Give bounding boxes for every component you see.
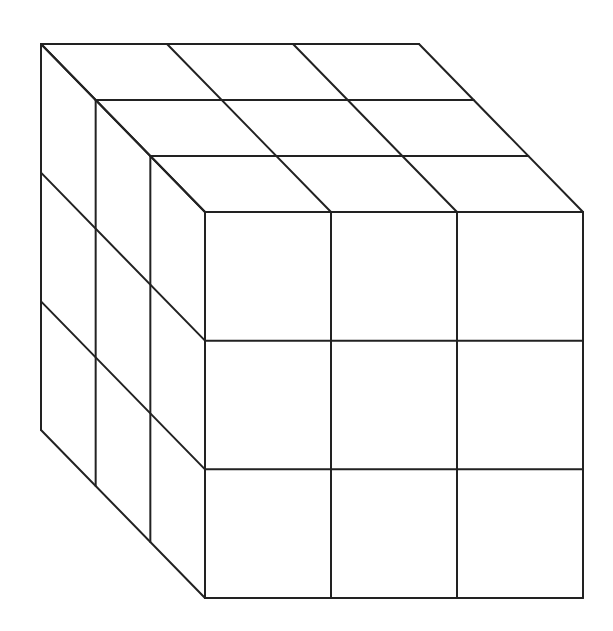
left-depth-line xyxy=(41,173,205,341)
top-depth-line xyxy=(419,44,583,212)
left-depth-line xyxy=(41,430,205,598)
top-depth-line xyxy=(167,44,331,212)
top-depth-line xyxy=(293,44,457,212)
left-depth-line xyxy=(41,301,205,469)
cube-diagram xyxy=(0,0,613,631)
left-depth-line xyxy=(41,44,205,212)
